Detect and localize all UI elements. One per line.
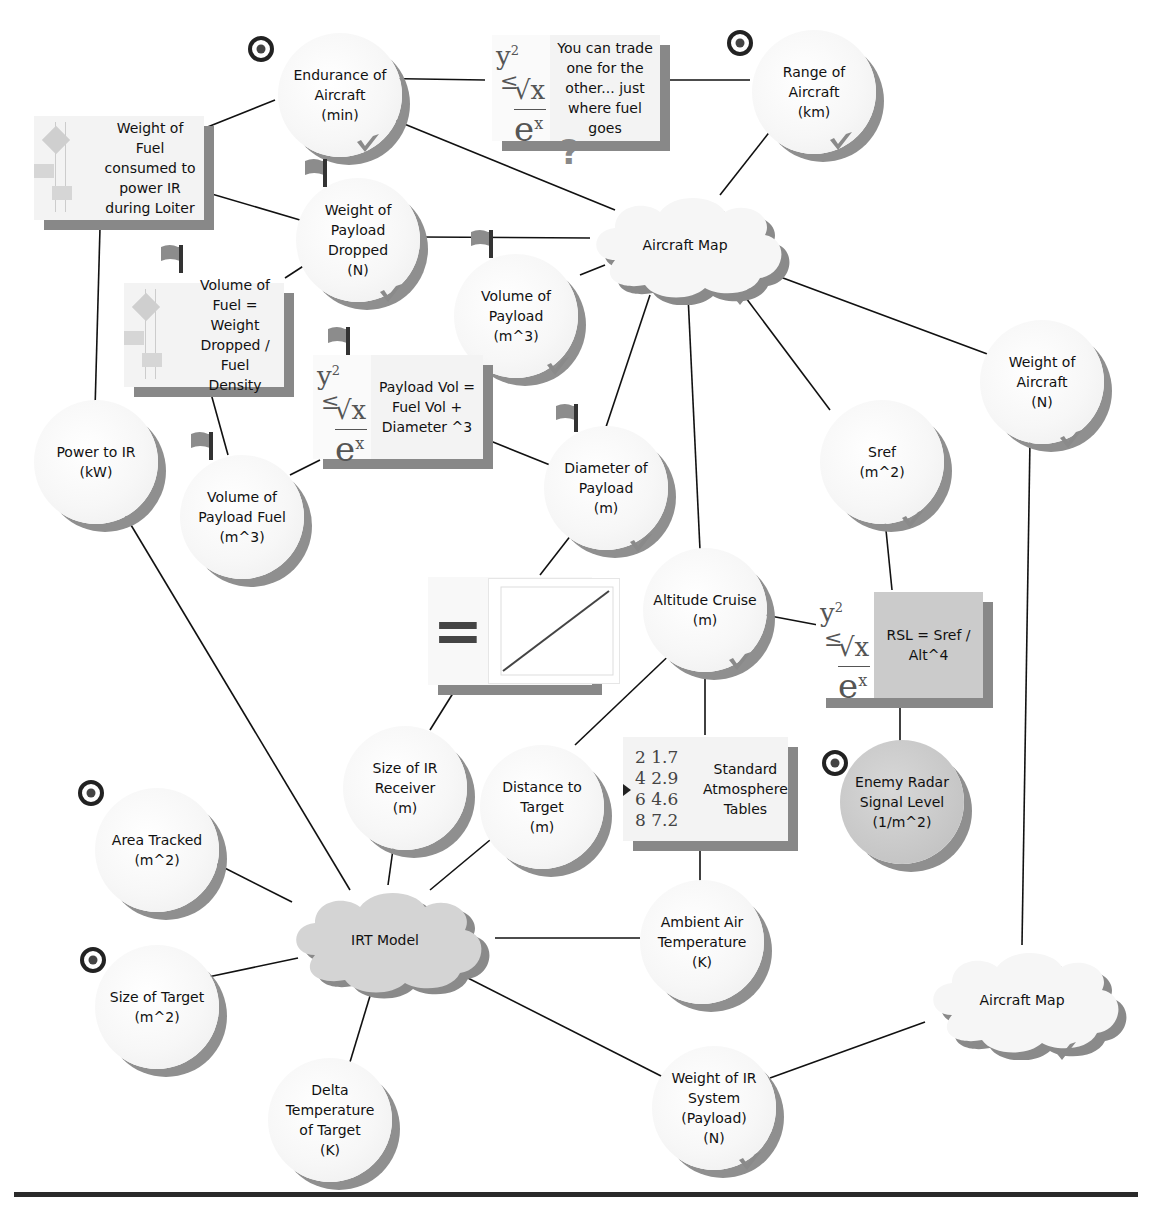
node-label: Volume of Fuel = Weight Dropped / Fuel D… (186, 275, 284, 395)
flag-icon (188, 430, 218, 462)
node-label: Power to IR (kW) (56, 442, 135, 482)
checkmark-icon (1052, 1040, 1078, 1062)
node-label: Weight of Fuel consumed to power IR duri… (96, 118, 204, 218)
target-icon (80, 947, 106, 973)
equation-icon: y2 ≤ √x ex (492, 35, 550, 141)
node-enemy-radar-signal-level[interactable]: Enemy Radar Signal Level (1/m^2) (840, 740, 964, 864)
node-label: Delta Temperature of Target (K) (286, 1080, 375, 1160)
node-label: Standard Atmosphere Tables (697, 759, 794, 819)
checkmark-icon (828, 130, 854, 152)
flowchart-icon (34, 116, 96, 220)
node-distance-to-target[interactable]: Distance to Target (m) (480, 745, 604, 869)
equation-icon: y2 ≤ √x ex (816, 592, 874, 698)
target-icon (727, 30, 753, 56)
node-aircraft-map-bottom[interactable]: Aircraft Map (922, 945, 1122, 1055)
target-icon (78, 780, 104, 806)
node-label: Weight of Payload Dropped (N) (325, 200, 392, 280)
node-endurance-of-aircraft[interactable]: Endurance of Aircraft (min) (278, 33, 402, 157)
node-payload-volume-equation[interactable]: y2 ≤ √x ex Payload Vol = Fuel Vol + Diam… (313, 355, 483, 459)
horizontal-divider (14, 1192, 1138, 1197)
node-label: Volume of Payload Fuel (m^3) (198, 487, 286, 547)
node-label: RSL = Sref / Alt^4 (874, 625, 983, 665)
node-label: Weight of IR System (Payload) (N) (671, 1068, 756, 1148)
line-plot-thumbnail (488, 578, 620, 684)
node-irt-model[interactable]: IRT Model (285, 885, 485, 995)
flag-icon (158, 243, 188, 275)
node-label: Area Tracked (m^2) (112, 830, 202, 870)
checkmark-icon (378, 282, 404, 304)
node-standard-atmosphere-tables[interactable]: 2 1.7 4 2.9 6 4.6 8 7.2 Standard Atmosph… (623, 737, 788, 841)
node-label: Endurance of Aircraft (min) (294, 65, 387, 125)
node-range-of-aircraft[interactable]: Range of Aircraft (km) (752, 30, 876, 154)
node-label: Payload Vol = Fuel Vol + Diameter ^3 (371, 377, 483, 437)
node-label: Weight of Aircraft (N) (1009, 352, 1076, 412)
node-label: Sref (m^2) (859, 442, 904, 482)
question-mark-icon: ? (560, 132, 580, 172)
equation-icon: y2 ≤ √x ex (313, 355, 371, 459)
checkmark-icon (730, 285, 756, 307)
node-volume-of-fuel-equation[interactable]: Volume of Fuel = Weight Dropped / Fuel D… (124, 283, 284, 387)
flowchart-icon (124, 283, 186, 387)
node-label: Size of Target (m^2) (110, 987, 204, 1027)
node-size-of-target[interactable]: Size of Target (m^2) (95, 945, 219, 1069)
node-volume-of-payload-fuel[interactable]: Volume of Payload Fuel (m^3) (180, 455, 304, 579)
node-label: Enemy Radar Signal Level (1/m^2) (855, 772, 949, 832)
checkmark-icon (545, 355, 571, 377)
node-weight-of-fuel-consumed[interactable]: Weight of Fuel consumed to power IR duri… (34, 116, 204, 220)
checkmark-icon (355, 132, 381, 154)
flag-icon (468, 228, 498, 260)
target-icon (822, 750, 848, 776)
equals-icon: = (428, 611, 488, 651)
node-ambient-air-temperature[interactable]: Ambient Air Temperature (K) (640, 880, 764, 1004)
checkmark-icon (900, 508, 926, 530)
node-label: Volume of Payload (m^3) (481, 286, 551, 346)
node-aircraft-map-top[interactable]: Aircraft Map (585, 190, 785, 300)
node-area-tracked[interactable]: Area Tracked (m^2) (95, 788, 219, 912)
node-label: IRT Model (351, 932, 419, 948)
checkmark-icon (628, 532, 654, 554)
checkmark-icon (1058, 428, 1084, 450)
node-label: Range of Aircraft (km) (783, 62, 845, 122)
node-sref[interactable]: Sref (m^2) (820, 400, 944, 524)
node-tradeoff-note[interactable]: y2 ≤ √x ex You can trade one for the oth… (492, 35, 660, 141)
node-label: Size of IR Receiver (m) (373, 758, 438, 818)
node-label: Aircraft Map (979, 992, 1064, 1008)
node-label: Ambient Air Temperature (K) (658, 912, 747, 972)
node-label: Distance to Target (m) (502, 777, 582, 837)
flag-icon (553, 402, 583, 434)
flag-icon (302, 157, 332, 189)
checkmark-icon (737, 1150, 763, 1172)
node-rsl-equation[interactable]: y2 ≤ √x ex RSL = Sref / Alt^4 (816, 592, 983, 698)
node-power-to-ir[interactable]: Power to IR (kW) (34, 400, 158, 524)
flag-icon (325, 325, 355, 357)
node-label: Aircraft Map (642, 237, 727, 253)
node-label: Altitude Cruise (m) (653, 590, 756, 630)
node-plot-chart[interactable]: = (428, 577, 592, 685)
node-size-of-ir-receiver[interactable]: Size of IR Receiver (m) (343, 726, 467, 850)
node-weight-of-aircraft[interactable]: Weight of Aircraft (N) (980, 320, 1104, 444)
table-icon: 2 1.7 4 2.9 6 4.6 8 7.2 (623, 747, 697, 831)
node-delta-temperature-of-target[interactable]: Delta Temperature of Target (K) (268, 1058, 392, 1182)
checkmark-icon (727, 650, 753, 672)
node-label: You can trade one for the other... just … (550, 38, 660, 138)
target-icon (248, 36, 274, 62)
node-label: Diameter of Payload (m) (564, 458, 647, 518)
